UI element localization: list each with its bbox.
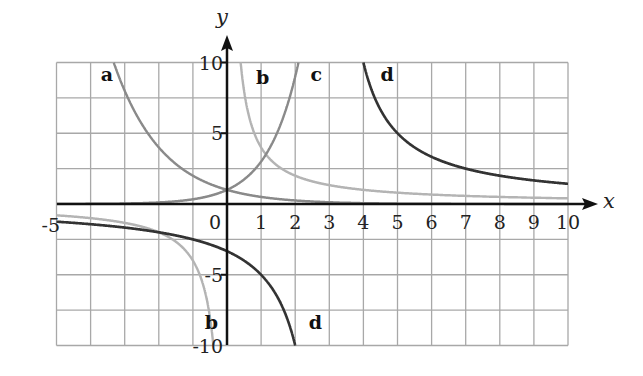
curve-label-c: c: [311, 63, 323, 85]
x-tick-label: 2: [289, 211, 301, 233]
y-axis-label: y: [215, 5, 229, 29]
curve-label-d: d: [380, 63, 393, 85]
y-tick-label: -10: [192, 335, 223, 357]
x-tick-label: 3: [323, 211, 335, 233]
x-tick-label: 10: [556, 211, 580, 233]
x-axis-label: x: [603, 189, 615, 213]
x-tick-label: 8: [494, 211, 506, 233]
x-tick-label: 9: [528, 211, 540, 233]
y-tick-label: 10: [199, 52, 223, 74]
curve-label-d: d: [309, 311, 322, 333]
y-tick-label: -5: [204, 264, 223, 286]
curve-label-b: b: [205, 311, 218, 333]
x-tick-label: 6: [426, 211, 438, 233]
x-tick-label: 1: [255, 211, 267, 233]
x-tick-label: 0: [209, 211, 221, 233]
curve-label-a: a: [101, 63, 113, 85]
x-tick-label: 7: [460, 211, 472, 233]
function-graph: -5012345678910105-5-10 x y abcdbd: [0, 0, 643, 376]
curve-label-b: b: [256, 66, 269, 88]
curve-b: [57, 215, 214, 345]
axes: [57, 35, 598, 345]
x-tick-label: 5: [391, 211, 403, 233]
x-tick-label: -5: [41, 214, 60, 236]
y-tick-label: 5: [211, 122, 223, 144]
x-tick-label: 4: [357, 211, 369, 233]
